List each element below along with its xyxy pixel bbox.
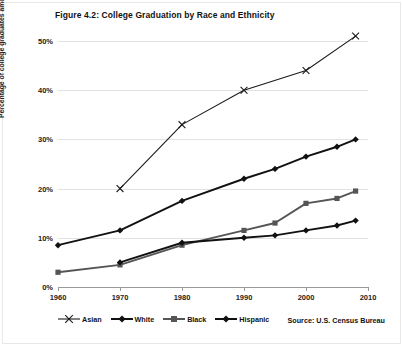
legend-marker-diamond-icon [215, 314, 237, 324]
y-axis-label: 20% [38, 184, 53, 193]
data-point-marker [241, 176, 247, 182]
data-point-marker [117, 185, 124, 192]
legend-item-black[interactable]: Black [163, 314, 206, 324]
data-point-marker [55, 242, 61, 248]
data-point-marker [241, 228, 246, 233]
data-point-marker [272, 220, 277, 225]
data-point-marker [241, 235, 247, 241]
plot-area: 0%10%20%30%40%50% 1960197019801990200020… [58, 41, 368, 287]
y-axis-label: 40% [38, 86, 53, 95]
y-axis-label: 10% [38, 233, 53, 242]
y-axis-label: 30% [38, 135, 53, 144]
x-axis-tick [58, 287, 59, 291]
data-point-marker [303, 201, 308, 206]
x-axis-label: 2010 [360, 293, 377, 302]
x-axis-tick [306, 287, 307, 291]
data-point-marker [117, 227, 123, 233]
source-note: Source: U.S. Census Bureau [288, 316, 385, 325]
series-line [120, 36, 356, 189]
series-white [55, 136, 359, 248]
y-axis-label: 50% [38, 37, 53, 46]
legend-item-asian[interactable]: Asian [58, 314, 102, 324]
chart-legend: AsianWhiteBlackHispanic [58, 314, 269, 324]
series-line [58, 191, 356, 272]
data-point-marker [179, 121, 186, 128]
data-point-marker [272, 232, 278, 238]
x-axis-tick [368, 287, 369, 291]
x-axis-label: 1990 [236, 293, 253, 302]
legend-item-white[interactable]: White [111, 314, 155, 324]
x-axis-tick [244, 287, 245, 291]
x-axis-line [58, 287, 368, 288]
data-point-marker [353, 188, 358, 193]
data-point-marker [334, 196, 339, 201]
x-axis-tick [182, 287, 183, 291]
legend-marker-x-cross-icon [58, 314, 80, 324]
y-axis-label: 0% [42, 283, 53, 292]
legend-marker-diamond-icon [111, 314, 133, 324]
data-point-marker [272, 166, 278, 172]
x-axis-label: 1960 [50, 293, 67, 302]
data-series-layer [58, 41, 368, 287]
series-hispanic [117, 217, 359, 265]
x-axis-label: 2000 [298, 293, 315, 302]
data-point-marker [55, 270, 60, 275]
data-point-marker [352, 33, 359, 40]
data-point-marker [179, 198, 185, 204]
data-point-marker [303, 153, 309, 159]
figure-container: Figure 4.2: College Graduation by Race a… [0, 0, 403, 346]
x-axis-tick [120, 287, 121, 291]
data-point-marker [352, 217, 358, 223]
legend-marker-square-icon [163, 314, 185, 324]
data-point-marker [303, 67, 310, 74]
legend-label: Black [187, 315, 206, 324]
legend-label: Hispanic [239, 315, 269, 324]
y-axis-title: Percentage of college graduates among ad… [0, 0, 5, 118]
x-axis-label: 1970 [112, 293, 129, 302]
data-point-marker [334, 222, 340, 228]
data-point-marker [303, 227, 309, 233]
legend-label: White [135, 315, 155, 324]
legend-item-hispanic[interactable]: Hispanic [215, 314, 269, 324]
series-line [120, 221, 356, 263]
data-point-marker [352, 136, 358, 142]
data-point-marker [334, 144, 340, 150]
series-black [55, 188, 358, 274]
figure-title: Figure 4.2: College Graduation by Race a… [55, 10, 275, 20]
x-axis-label: 1980 [174, 293, 191, 302]
legend-label: Asian [82, 315, 102, 324]
data-point-marker [241, 87, 248, 94]
series-asian [117, 33, 359, 192]
